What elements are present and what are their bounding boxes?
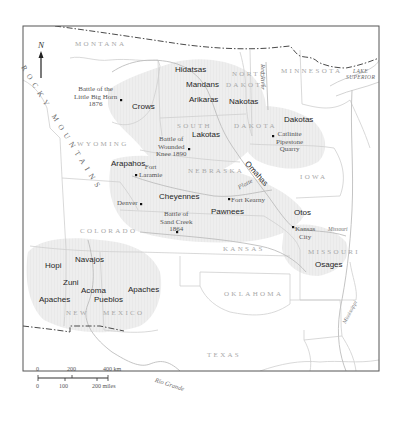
state-label-nebraska: NEBRASKA: [188, 168, 244, 175]
tribe-label-arikaras: Arikaras: [189, 96, 218, 104]
marker-fort-kearny: [228, 198, 230, 200]
tribe-label-otos: Otos: [294, 209, 311, 217]
state-label-new: NEW: [66, 310, 89, 317]
state-label-wyoming: WYOMING: [77, 141, 128, 148]
state-label-dakota-south: DAKOTA: [234, 123, 277, 130]
lake-superior-label: LAKE SUPERIOR: [346, 68, 375, 80]
north-arrow-icon: [39, 51, 44, 78]
state-label-south: SOUTH: [177, 123, 212, 130]
state-label-iowa: IOWA: [300, 174, 327, 181]
scale-km-400: 400 km: [103, 366, 121, 372]
tribe-label-navajos: Navajos: [75, 256, 104, 264]
border-gulf-coast: [260, 360, 379, 371]
river-label-red-river: Red River: [260, 64, 267, 90]
marker-kansas-city: [292, 226, 294, 228]
scale-mi-200: 200 miles: [92, 383, 116, 389]
site-label-fort-laramie: Fort Laramie: [139, 164, 162, 179]
scale-km-0: 0: [36, 366, 39, 372]
tribe-label-osages: Osages: [315, 261, 343, 269]
river-label-missouri: Missouri: [328, 227, 348, 233]
site-label-little-big-horn: Battle of the Little Big Horn 1876: [74, 86, 117, 109]
state-label-minnesota: MINNESOTA: [281, 68, 342, 75]
tribe-label-hidatsas: Hidatsas: [175, 66, 206, 74]
tribe-label-pueblos: Pueblos: [94, 296, 123, 304]
scale-mi-0: 0: [36, 383, 39, 389]
state-label-kansas: KANSAS: [223, 246, 265, 253]
site-label-wounded-knee: Battle of Wounded Knee 1890: [156, 136, 187, 159]
site-label-denver: Denver: [117, 200, 138, 208]
scale-km-200: 200: [67, 366, 76, 372]
border-wisconsin: [350, 100, 370, 148]
tribe-label-mandans: Mandans: [186, 81, 219, 89]
marker-denver: [140, 203, 142, 205]
site-label-pipestone-quarry: Catlinite Pipestone Quarry: [276, 131, 303, 154]
map-canvas: [0, 0, 398, 426]
marker-fort-laramie: [135, 174, 137, 176]
state-label-oklahoma: OKLAHOMA: [224, 291, 283, 298]
scale-mi-100: 100: [59, 383, 68, 389]
state-label-montana: MONTANA: [75, 41, 126, 48]
border-kansas-south: [138, 252, 290, 256]
tribe-label-crows: Crows: [132, 103, 155, 111]
state-label-missouri: MISSOURI: [308, 249, 360, 256]
state-label-colorado: COLORADO: [80, 228, 137, 235]
tribe-label-apaches-west: Apaches: [39, 296, 70, 304]
tribe-label-hopi: Hopi: [45, 262, 61, 270]
tribe-label-lakotas: Lakotas: [192, 131, 220, 139]
tribe-label-dakotas: Dakotas: [284, 116, 313, 124]
tribe-label-zuni: Zuni: [63, 279, 79, 287]
border-texas-panhandle: [180, 256, 200, 286]
state-label-mexico: MEXICO: [103, 310, 144, 317]
site-label-fort-kearny: Fort Kearny: [231, 197, 265, 205]
state-label-texas: TEXAS: [207, 352, 241, 359]
marker-wounded-knee: [188, 148, 190, 150]
tribe-label-acoma: Acoma: [81, 287, 106, 295]
border-louisiana: [304, 336, 356, 371]
tribe-label-cheyennes: Cheyennes: [159, 193, 199, 201]
marker-pipestone: [272, 135, 274, 137]
marker-little-big-horn: [120, 99, 122, 101]
site-label-sand-creek: Battle of Sand Creek 1864: [160, 211, 192, 234]
tribe-label-apaches-east: Apaches: [128, 286, 159, 294]
tribe-label-nakotas: Nakotas: [229, 98, 258, 106]
scale-bar: [38, 375, 108, 381]
north-label: N: [38, 41, 44, 50]
border-arkansas: [290, 300, 342, 340]
tribe-label-pawnees: Pawnees: [211, 208, 244, 216]
site-label-kansas-city: Kansas City: [295, 226, 315, 241]
